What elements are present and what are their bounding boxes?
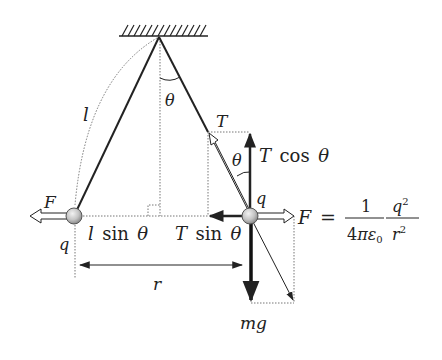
- tension-arrow: [209, 133, 251, 214]
- force-left-label: F: [43, 192, 57, 212]
- right-angle-label: θ: [232, 151, 242, 170]
- charge-right-label: q: [256, 189, 266, 208]
- construction-lines: [75, 38, 294, 303]
- svg-text:F: F: [297, 206, 312, 228]
- force-right-arrow: [256, 209, 294, 223]
- top-angle-arc: [160, 77, 180, 80]
- svg-text:4πε0: 4πε0: [347, 225, 383, 245]
- separation-label: r: [153, 274, 162, 294]
- svg-text:1: 1: [361, 197, 371, 216]
- right-string: [159, 37, 208, 132]
- t-cos-label: T cos θ: [259, 145, 329, 166]
- left-string: [75, 37, 159, 214]
- ceiling-support: [119, 25, 208, 36]
- right-charge-ball: [242, 208, 258, 224]
- left-charge-ball: [66, 208, 82, 224]
- svg-text:=: =: [320, 206, 336, 228]
- right-angle-mark: [148, 205, 160, 216]
- top-angle-label: θ: [165, 91, 175, 110]
- charge-left-label: q: [59, 235, 69, 254]
- coulomb-formula: F = 1 4πε0 q2 r2: [297, 196, 419, 245]
- t-sin-label: T sin θ: [175, 223, 242, 244]
- weight-label: mg: [240, 313, 267, 333]
- l-sin-label: l sin θ: [88, 223, 148, 244]
- svg-text:q2: q2: [392, 196, 409, 216]
- tension-label: T: [216, 111, 229, 131]
- right-angle-arc: [237, 172, 250, 176]
- resultant-arrow: [252, 220, 293, 300]
- svg-text:r2: r2: [392, 224, 406, 244]
- strings: [75, 37, 208, 214]
- length-label: l: [83, 104, 89, 125]
- pendulum-diagram: l θ T θ T cos θ q F q l sin θ T sin θ r …: [0, 0, 442, 360]
